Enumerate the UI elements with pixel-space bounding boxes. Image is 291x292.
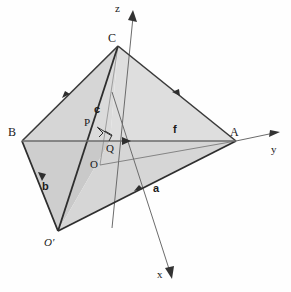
vertex-label-O-prime: O′: [44, 237, 54, 248]
geometry-figure: C A B O′ P Q O z y x a b c f: [0, 0, 291, 292]
diagram-canvas: [0, 0, 291, 292]
vertex-label-B: B: [8, 126, 16, 138]
axis-y-arrowhead: [269, 130, 280, 137]
vertex-label-A: A: [230, 126, 239, 138]
axis-label-x: x: [157, 269, 163, 280]
vertex-label-C: C: [108, 32, 116, 44]
vector-label-c: c: [94, 104, 100, 115]
vector-label-a: a: [153, 183, 159, 194]
axis-label-z: z: [115, 3, 120, 14]
axis-label-y: y: [271, 144, 277, 155]
vector-label-b: b: [42, 181, 49, 192]
axis-y-line: [236, 133, 274, 141]
vector-label-f: f: [173, 124, 177, 135]
point-label-O: O: [90, 159, 98, 170]
axis-z-arrowhead: [128, 10, 137, 22]
point-label-Q: Q: [106, 143, 114, 154]
point-label-P: P: [84, 117, 90, 128]
axis-x-arrowhead: [165, 266, 174, 279]
